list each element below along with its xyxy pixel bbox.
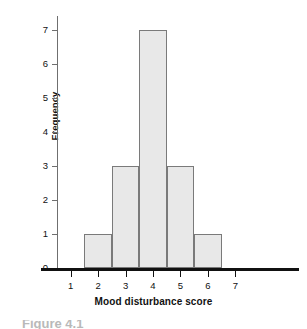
y-axis-tick-label: 7	[34, 25, 48, 34]
histogram-bar	[84, 234, 111, 268]
y-axis-tick-label: 6	[34, 59, 48, 68]
x-axis-tick-label: 2	[90, 280, 106, 291]
histogram-bar	[139, 30, 166, 268]
x-axis-tick	[235, 271, 236, 277]
x-axis-tick-label: 1	[63, 280, 79, 291]
x-axis-title: Mood disturbance score	[0, 296, 307, 307]
x-axis-tick-label: 6	[200, 280, 216, 291]
histogram-bar	[112, 166, 139, 268]
y-axis-tick-label: 4	[34, 127, 48, 136]
x-axis-tick	[126, 271, 127, 277]
figure-caption-text: Figure 4.1	[22, 320, 182, 329]
y-axis-tick-label: 2	[34, 195, 48, 204]
y-axis-tick-label: 5	[34, 93, 48, 102]
x-axis-tick	[208, 271, 209, 277]
figure-caption: Figure 4.1	[22, 320, 182, 329]
histogram-figure: Frequency 01234567 1234567 Mood disturba…	[0, 0, 307, 329]
x-axis-tick	[153, 271, 154, 277]
x-axis-line	[41, 268, 299, 271]
x-axis-tick	[180, 271, 181, 277]
x-axis-tick-label: 5	[172, 280, 188, 291]
y-axis-tick-label: 3	[34, 161, 48, 170]
x-axis-tick-label: 4	[145, 280, 161, 291]
histogram-bar	[167, 166, 194, 268]
x-axis-tick	[98, 271, 99, 277]
histogram-bar	[194, 234, 221, 268]
y-axis-tick-label: 1	[34, 229, 48, 238]
x-axis-tick-label: 3	[118, 280, 134, 291]
x-axis-tick	[71, 271, 72, 277]
x-axis-tick-label: 7	[227, 280, 243, 291]
